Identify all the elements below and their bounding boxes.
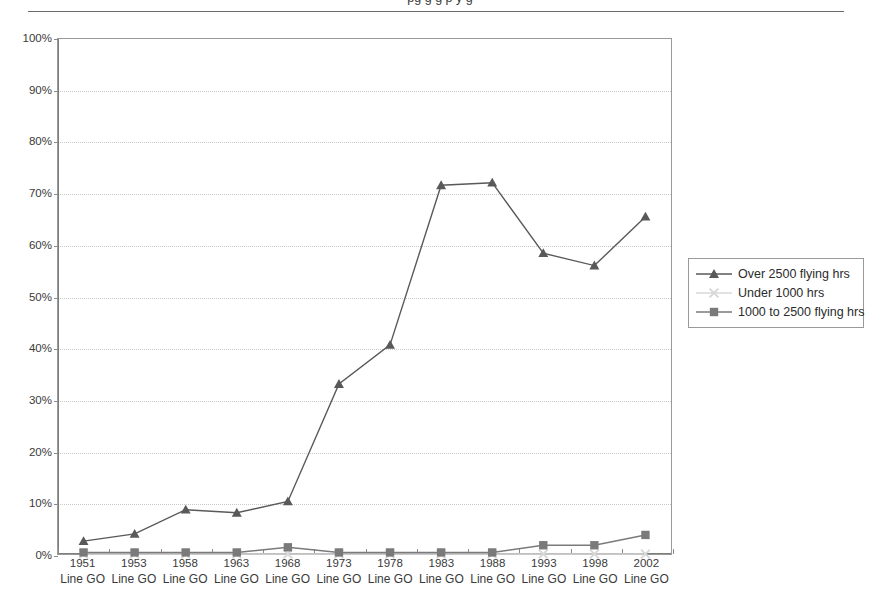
x-axis-year-label: 1993 <box>522 556 567 571</box>
x-axis-sub-label: Line GO <box>470 571 515 587</box>
x-axis-sub-label: Line GO <box>317 571 362 587</box>
x-axis-category: 1973Line GO <box>317 556 362 587</box>
header-rule <box>28 11 844 12</box>
x-axis-year-label: 2002 <box>624 556 669 571</box>
series-line <box>84 183 646 541</box>
y-axis-tick-label: 50% <box>6 291 52 303</box>
legend-key-x-cross <box>695 285 733 301</box>
square-marker <box>284 543 292 551</box>
plot-area <box>57 38 672 555</box>
triangle-marker <box>130 529 140 538</box>
x-axis-year-label: 1983 <box>419 556 464 571</box>
x-axis-category: 1978Line GO <box>368 556 413 587</box>
series-1 <box>79 178 651 545</box>
y-axis-tick-label: 70% <box>6 187 52 199</box>
x-axis-sub-label: Line GO <box>419 571 464 587</box>
legend-item-3[interactable]: 1000 to 2500 flying hrs <box>695 302 857 321</box>
triangle-marker <box>181 505 191 514</box>
x-axis-sub-label: Line GO <box>112 571 157 587</box>
square-marker <box>539 541 547 549</box>
legend-label: 1000 to 2500 flying hrs <box>733 305 864 319</box>
y-axis-tick-label: 100% <box>6 32 52 44</box>
triangle-marker <box>334 379 344 388</box>
x-axis-category: 1951Line GO <box>60 556 105 587</box>
legend-key-square <box>695 304 733 320</box>
chart-legend: Over 2500 flying hrsUnder 1000 hrs1000 t… <box>688 258 864 328</box>
y-axis-tick-label: 40% <box>6 342 52 354</box>
x-axis-category: 1998Line GO <box>573 556 618 587</box>
y-axis-tick-label: 30% <box>6 394 52 406</box>
x-axis-category: 1953Line GO <box>112 556 157 587</box>
x-axis-sub-label: Line GO <box>624 571 669 587</box>
x-axis-year-label: 1998 <box>573 556 618 571</box>
x-axis-year-label: 1978 <box>368 556 413 571</box>
legend-item-1[interactable]: Over 2500 flying hrs <box>695 264 857 283</box>
y-axis-tick-label: 90% <box>6 84 52 96</box>
x-axis-labels: 1951Line GO1953Line GO1958Line GO1963Lin… <box>57 556 672 600</box>
x-axis-year-label: 1958 <box>163 556 208 571</box>
x-axis-sub-label: Line GO <box>214 571 259 587</box>
x-axis-category: 1993Line GO <box>522 556 567 587</box>
square-marker <box>641 531 649 539</box>
x-axis-sub-label: Line GO <box>265 571 310 587</box>
triangle-marker <box>283 496 293 505</box>
triangle-marker <box>385 340 395 349</box>
x-axis-sub-label: Line GO <box>522 571 567 587</box>
x-axis-category: 1988Line GO <box>470 556 515 587</box>
y-axis-tick-label: 20% <box>6 446 52 458</box>
x-axis-sub-label: Line GO <box>60 571 105 587</box>
x-axis-category: 2002Line GO <box>624 556 669 587</box>
x-axis-year-label: 1963 <box>214 556 259 571</box>
x-axis-year-label: 1973 <box>317 556 362 571</box>
y-axis-tick-label: 80% <box>6 135 52 147</box>
x-axis-year-label: 1988 <box>470 556 515 571</box>
x-axis-sub-label: Line GO <box>163 571 208 587</box>
series-layer <box>58 39 671 554</box>
legend-key-triangle <box>695 266 733 282</box>
square-marker <box>590 541 598 549</box>
triangle-marker <box>487 178 497 187</box>
x-axis-sub-label: Line GO <box>573 571 618 587</box>
x-axis-category: 1963Line GO <box>214 556 259 587</box>
legend-label: Over 2500 flying hrs <box>733 267 850 281</box>
x-axis-category: 1968Line GO <box>265 556 310 587</box>
x-axis-sub-label: Line GO <box>368 571 413 587</box>
series-line <box>84 535 646 553</box>
chart-page: pg g g p y g 0%10%20%30%40%50%60%70%80%9… <box>0 0 871 603</box>
y-axis-labels: 0%10%20%30%40%50%60%70%80%90%100% <box>0 38 52 555</box>
clipped-header-text: pg g g p y g <box>120 0 760 7</box>
y-axis-tick-label: 10% <box>6 497 52 509</box>
triangle-marker <box>640 212 650 221</box>
x-axis-year-label: 1951 <box>60 556 105 571</box>
x-axis-tick <box>673 549 674 554</box>
series-3 <box>79 531 649 557</box>
x-axis-category: 1983Line GO <box>419 556 464 587</box>
x-axis-year-label: 1968 <box>265 556 310 571</box>
x-axis-category: 1958Line GO <box>163 556 208 587</box>
y-axis-tick-label: 0% <box>6 549 52 561</box>
square-marker <box>710 307 718 315</box>
x-axis-year-label: 1953 <box>112 556 157 571</box>
legend-item-2[interactable]: Under 1000 hrs <box>695 283 857 302</box>
legend-label: Under 1000 hrs <box>733 286 824 300</box>
y-axis-tick-label: 60% <box>6 239 52 251</box>
